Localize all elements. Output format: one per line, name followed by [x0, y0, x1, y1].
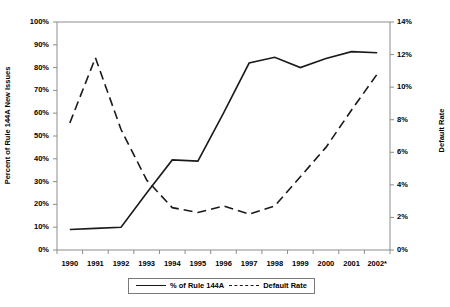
y-axis-left-tick-label: 50% — [15, 131, 49, 140]
series-line-default-rate — [70, 58, 377, 214]
y-axis-right-tick-label: 0% — [397, 245, 427, 254]
legend-label-default-rate: Default Rate — [263, 281, 307, 290]
y-axis-left-tick-label: 0% — [15, 245, 49, 254]
series-line-rule-144a — [70, 52, 377, 230]
y-axis-right-tick-label: 12% — [397, 50, 427, 59]
y-axis-left-tick-label: 60% — [15, 108, 49, 117]
legend-item-rule144a: % of Rule 144A — [136, 281, 224, 290]
y-axis-left-tick-label: 90% — [15, 40, 49, 49]
legend-label-rule144a: % of Rule 144A — [170, 281, 224, 290]
solid-line-swatch-icon — [136, 285, 166, 286]
y-axis-right-tick-label: 14% — [397, 17, 427, 26]
y-axis-left-tick-label: 30% — [15, 177, 49, 186]
y-axis-left-tick-label: 80% — [15, 63, 49, 72]
x-axis-tick-label: 2002* — [360, 259, 394, 268]
dashed-line-swatch-icon — [229, 285, 259, 286]
y-axis-left-tick-label: 40% — [15, 154, 49, 163]
legend-item-default-rate: Default Rate — [229, 281, 307, 290]
y-axis-left-tick-label: 70% — [15, 85, 49, 94]
y-axis-right-tick-label: 6% — [397, 147, 427, 156]
y-axis-right-tick-label: 10% — [397, 82, 427, 91]
chart-container: Percent of Rule 144A New Issues Default … — [0, 0, 450, 307]
chart-legend: % of Rule 144A Default Rate — [128, 278, 315, 294]
y-axis-right-tick-label: 2% — [397, 212, 427, 221]
y-axis-left-tick-label: 10% — [15, 222, 49, 231]
y-axis-left-tick-label: 20% — [15, 199, 49, 208]
y-axis-right-tick-label: 4% — [397, 180, 427, 189]
y-axis-left-tick-label: 100% — [15, 17, 49, 26]
y-axis-right-tick-label: 8% — [397, 115, 427, 124]
